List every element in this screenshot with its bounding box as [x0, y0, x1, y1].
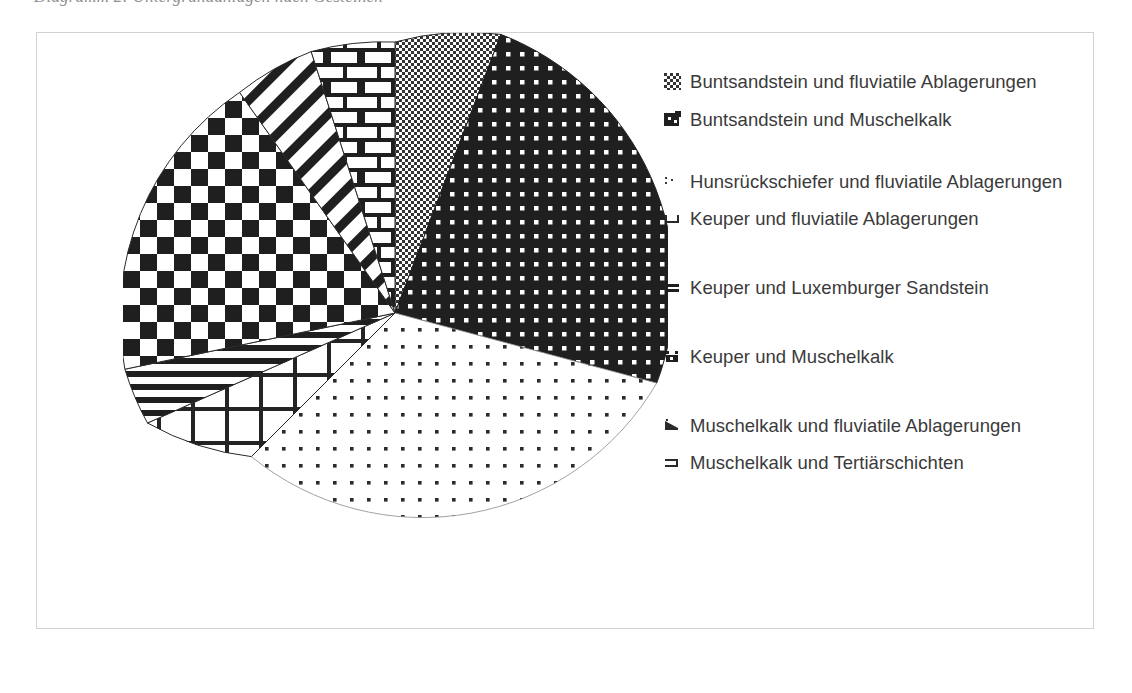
legend-item-keuper-fluviatile[interactable]: Keuper und fluviatile Ablagerungen: [664, 206, 1084, 236]
figure-caption: Diagramm 2: Untergrundanlagen nach Geste…: [34, 0, 734, 9]
dark-block-swatch-icon: [664, 111, 681, 128]
pie-chart-svg: [123, 33, 668, 628]
legend-label: Keuper und Muschelkalk: [690, 344, 894, 371]
pie-sectors: [123, 33, 668, 518]
legend-item-muschelkalk-fluviatile[interactable]: Muschelkalk und fluviatile Ablagerungen: [664, 413, 1084, 443]
legend-item-keuper-luxemburger[interactable]: Keuper und Luxemburger Sandstein: [664, 275, 1084, 305]
chart-legend: Buntsandstein und fluviatile Ablagerunge…: [664, 53, 1084, 480]
legend-item-keuper-muschelkalk[interactable]: Keuper und Muschelkalk: [664, 344, 1084, 374]
legend-item-buntsandstein-fluviatile[interactable]: Buntsandstein und fluviatile Ablagerunge…: [664, 69, 1084, 99]
sparse-dots-swatch-icon: [664, 173, 681, 190]
checker-block-swatch-icon: [664, 348, 681, 365]
legend-label: Buntsandstein und fluviatile Ablagerunge…: [690, 69, 1037, 96]
legend-label: Muschelkalk und Tertiärschichten: [690, 450, 964, 477]
legend-label: Hunsrückschiefer und fluviatile Ablageru…: [690, 169, 1062, 196]
figure-frame: Buntsandstein und fluviatile Ablagerunge…: [36, 32, 1094, 629]
fine-checker-swatch-icon: [664, 73, 681, 90]
legend-item-muschelkalk-tertiaer[interactable]: Muschelkalk und Tertiärschichten: [664, 450, 1084, 480]
legend-label: Keuper und Luxemburger Sandstein: [690, 275, 989, 302]
legend-label: Buntsandstein und Muschelkalk: [690, 107, 952, 134]
legend-item-buntsandstein-muschelkalk[interactable]: Buntsandstein und Muschelkalk: [664, 107, 1084, 137]
diagonal-swatch-icon: [664, 417, 681, 434]
horizontal-lines-swatch-icon: [664, 279, 681, 296]
corner-line-swatch-icon: [664, 210, 681, 227]
figure-page: Diagramm 2: Untergrundanlagen nach Geste…: [0, 0, 1132, 693]
pie-chart: [123, 33, 668, 628]
legend-item-hunsrueckschiefer-fluviatile[interactable]: Hunsrückschiefer und fluviatile Ablageru…: [664, 169, 1084, 199]
legend-label: Muschelkalk und fluviatile Ablagerungen: [690, 413, 1021, 440]
bracket-swatch-icon: [664, 454, 681, 471]
legend-label: Keuper und fluviatile Ablagerungen: [690, 206, 979, 233]
